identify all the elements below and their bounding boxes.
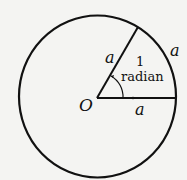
angle-value-label: 1 bbox=[136, 54, 144, 69]
center-label: O bbox=[79, 95, 93, 115]
slanted-radius-label: a bbox=[105, 48, 115, 67]
arc-label: a bbox=[170, 41, 180, 60]
radian-diagram: O a a a 1 radian bbox=[0, 0, 187, 180]
horizontal-radius-label: a bbox=[135, 100, 145, 119]
slanted-radius bbox=[97, 27, 138, 98]
midpoint-dot bbox=[132, 97, 135, 100]
angle-unit-label: radian bbox=[121, 69, 164, 84]
